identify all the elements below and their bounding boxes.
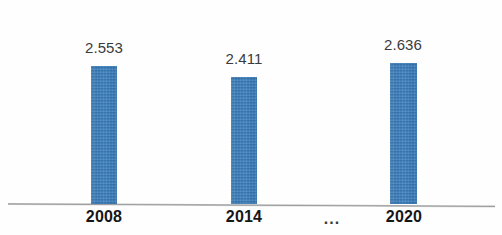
- bar-chart: 2.553 2.411 2.636 2008 2014 2020 ...: [0, 0, 502, 235]
- plot-area: 2.553 2.411 2.636 2008 2014 2020 ...: [0, 0, 502, 235]
- bar-2020: [390, 63, 417, 204]
- category-label-2008: 2008: [66, 208, 142, 226]
- bar-2014: [231, 77, 257, 204]
- category-label-2020: 2020: [366, 208, 442, 226]
- category-label-2014: 2014: [206, 208, 282, 226]
- axis-gap-ellipsis: ...: [306, 212, 358, 226]
- value-label-2014: 2.411: [210, 50, 278, 67]
- value-label-2020: 2.636: [369, 36, 437, 53]
- bar-2008: [91, 66, 117, 204]
- value-label-2008: 2.553: [70, 39, 138, 56]
